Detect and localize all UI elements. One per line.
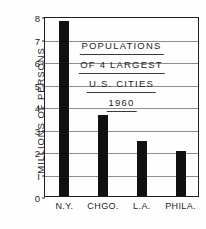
- y-tick-label: 4: [35, 103, 40, 114]
- y-tick-mark: [42, 85, 45, 86]
- y-tick-label: I: [37, 170, 40, 181]
- y-tick-mark: [42, 130, 45, 131]
- bar-chart: MILLIONS OF PERSONS 8765432I0 N.Y.CHGO.L…: [0, 0, 206, 229]
- y-tick-mark: [42, 198, 45, 199]
- x-tick-label: N.Y.: [55, 201, 73, 211]
- y-tick-label: 5: [35, 80, 40, 91]
- chart-title-line: 1960: [107, 95, 137, 112]
- plot-area: 8765432I0 N.Y.CHGO.L.A.PHILA. POPULATION…: [44, 17, 199, 197]
- y-tick-label: 0: [35, 193, 40, 204]
- y-tick-mark: [42, 63, 45, 64]
- x-tick-label: L.A.: [133, 201, 151, 211]
- y-tick-mark: [42, 153, 45, 154]
- y-tick-label: 2: [35, 148, 40, 159]
- chart-title-line: U.S. CITIES: [87, 76, 156, 93]
- x-tick-label: PHILA.: [165, 201, 196, 211]
- y-tick-label: 6: [35, 58, 40, 69]
- y-tick-mark: [42, 175, 45, 176]
- bar: [176, 151, 186, 196]
- y-tick-mark: [42, 40, 45, 41]
- y-tick-mark: [42, 18, 45, 19]
- y-tick-label: 7: [35, 35, 40, 46]
- bar: [98, 115, 108, 196]
- y-tick-label: 3: [35, 125, 40, 136]
- bar: [59, 21, 69, 197]
- chart-title: POPULATIONSOF 4 LARGESTU.S. CITIES1960: [78, 38, 165, 114]
- bar: [137, 141, 147, 196]
- chart-title-line: OF 4 LARGEST: [78, 57, 165, 74]
- y-tick-mark: [42, 108, 45, 109]
- y-tick-label: 8: [35, 13, 40, 24]
- x-tick-label: CHGO.: [87, 201, 119, 211]
